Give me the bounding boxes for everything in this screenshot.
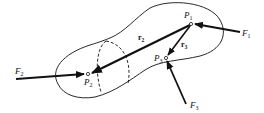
force-f3-label: F3 [189, 100, 199, 111]
force-f2-label: F2 [14, 66, 24, 77]
force-arrow-f1 [195, 24, 240, 32]
force-arrow-f3 [167, 61, 186, 104]
point-p2-label: P2 [83, 77, 93, 88]
point-p3-marker [164, 56, 167, 59]
point-p1-marker [189, 22, 192, 25]
cross-section-dashed [106, 41, 129, 84]
point-p2-marker [86, 72, 89, 75]
force-f1-label: F1 [241, 28, 251, 39]
vector-r3-label: r3 [181, 40, 188, 50]
rigid-body-diagram: P1 P2 P3 F1 F2 F3 r2 r3 [0, 0, 264, 113]
force-arrow-f2 [16, 74, 84, 79]
point-p1-label: P1 [183, 10, 193, 21]
vector-r2-label: r2 [138, 33, 145, 43]
point-p3-label: P3 [153, 53, 163, 64]
